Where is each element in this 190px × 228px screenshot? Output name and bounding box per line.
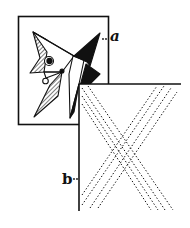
eye-pupil (47, 58, 52, 63)
panel-b-label: b (62, 172, 73, 187)
panel-a-label: a (110, 29, 120, 44)
panel-b (79, 84, 181, 212)
figure-canvas (0, 0, 190, 228)
chin-circle (43, 78, 49, 84)
